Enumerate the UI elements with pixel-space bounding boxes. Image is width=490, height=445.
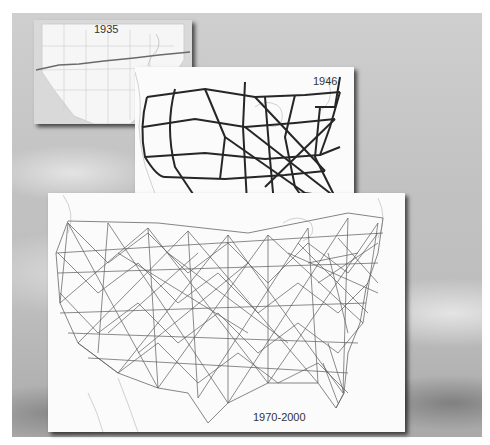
year-label-1946: 1946: [313, 75, 337, 87]
year-label-1935: 1935: [94, 23, 118, 35]
route-network: [56, 218, 383, 408]
year-label-1970-2000: 1970-2000: [253, 411, 306, 423]
map-1970-2000-graphic: [48, 193, 405, 432]
map-panel-1970-2000: 1970-2000: [48, 193, 405, 432]
